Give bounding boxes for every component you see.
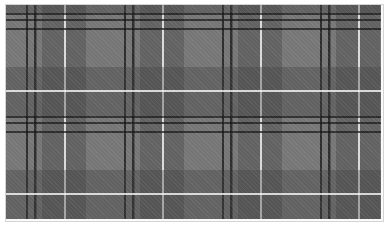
tartan-pattern	[6, 5, 381, 219]
twill-texture	[6, 5, 381, 219]
